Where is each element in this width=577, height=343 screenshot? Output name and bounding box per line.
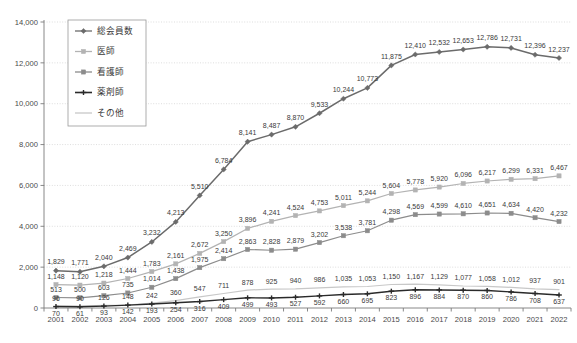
x-axis-tick-label: 2004 <box>119 315 136 324</box>
data-point-label: 409 <box>218 303 230 310</box>
data-point-label: 5,011 <box>335 194 352 201</box>
legend-label: 看護師 <box>97 66 124 77</box>
x-axis-tick-label: 2008 <box>215 315 232 324</box>
data-point-label: 193 <box>146 307 158 314</box>
data-point-label: 592 <box>314 299 326 306</box>
data-point-label: 2,672 <box>191 241 209 248</box>
data-point-label: 1,035 <box>335 275 353 282</box>
data-point-marker <box>222 257 226 261</box>
data-point-label: 12,396 <box>524 42 546 49</box>
data-point-label: 5,244 <box>359 189 377 196</box>
data-point-label: 70 <box>52 310 60 317</box>
data-point-label: 12,653 <box>452 37 474 44</box>
data-point-label: 61 <box>76 310 84 317</box>
data-point-label: 2,469 <box>119 245 137 252</box>
y-axis-tick-label: 8,000 <box>19 140 38 149</box>
data-point-marker <box>437 212 441 216</box>
data-point-label: 4,610 <box>454 202 472 209</box>
data-point-label: 4,569 <box>407 203 425 210</box>
data-point-label: 1,120 <box>71 273 89 280</box>
data-point-marker <box>150 269 154 273</box>
data-point-marker <box>389 191 393 195</box>
data-point-marker <box>461 212 465 216</box>
data-point-label: 2,879 <box>287 237 305 244</box>
data-point-marker <box>485 179 489 183</box>
data-point-label: 12,731 <box>500 35 522 42</box>
data-point-label: 1,975 <box>191 256 209 263</box>
data-point-label: 4,232 <box>550 210 568 217</box>
data-point-label: 5,778 <box>407 178 425 185</box>
data-point-label: 3,202 <box>311 231 329 238</box>
data-point-label: 5,510 <box>191 183 209 190</box>
x-axis-tick-label: 2006 <box>167 315 184 324</box>
data-point-marker <box>437 49 442 54</box>
x-axis-tick-label: 2011 <box>287 315 303 324</box>
data-point-label: 360 <box>170 289 182 296</box>
data-point-marker <box>365 229 369 233</box>
legend-label: 薬剤師 <box>97 86 124 97</box>
data-point-marker <box>198 266 202 270</box>
y-axis-tick-label: 14,000 <box>15 18 38 27</box>
data-point-label: 142 <box>122 308 134 315</box>
data-point-label: 148 <box>122 293 134 300</box>
data-point-label: 126 <box>98 294 110 301</box>
data-point-label: 1,438 <box>167 267 185 274</box>
data-point-marker <box>341 204 345 208</box>
data-point-label: 6,467 <box>550 164 568 171</box>
data-point-label: 1,218 <box>95 271 113 278</box>
data-point-marker <box>126 276 130 280</box>
data-point-label: 925 <box>266 278 278 285</box>
data-point-label: 2,161 <box>167 252 185 259</box>
data-point-label: 4,524 <box>287 204 305 211</box>
data-point-label: 695 <box>362 297 374 304</box>
data-point-marker <box>293 247 297 251</box>
x-axis-tick-label: 2012 <box>311 315 328 324</box>
data-point-marker <box>174 262 178 266</box>
data-point-marker <box>81 49 85 53</box>
data-point-marker <box>150 285 154 289</box>
data-point-marker <box>509 177 513 181</box>
data-point-label: 8,487 <box>263 122 281 129</box>
data-point-label: 937 <box>529 277 541 284</box>
data-point-label: 878 <box>242 279 254 286</box>
data-point-label: 870 <box>457 293 469 300</box>
data-point-label: 901 <box>553 278 565 285</box>
x-axis-tick-label: 2019 <box>479 315 496 324</box>
data-point-label: 11,875 <box>381 53 402 60</box>
data-point-marker <box>485 44 490 49</box>
x-axis-tick-label: 2009 <box>239 315 256 324</box>
y-axis-tick-label: 2,000 <box>19 263 38 272</box>
data-point-marker <box>317 240 321 244</box>
data-point-label: 860 <box>481 293 493 300</box>
data-point-label: 316 <box>194 305 206 312</box>
data-point-marker <box>365 199 369 203</box>
x-axis-tick-label: 2014 <box>359 315 376 324</box>
y-axis-tick-label: 0 <box>34 304 38 313</box>
data-point-label: 1,014 <box>143 275 161 282</box>
x-axis-tick-label: 2015 <box>383 315 400 324</box>
data-point-label: 93 <box>100 309 108 316</box>
data-point-label: 603 <box>98 284 110 291</box>
data-point-label: 12,237 <box>548 46 570 53</box>
data-point-label: 2,040 <box>95 254 113 261</box>
data-point-label: 3,538 <box>335 224 353 231</box>
data-point-label: 9,533 <box>311 101 329 108</box>
data-point-marker <box>341 234 345 238</box>
data-point-label: 637 <box>553 298 565 305</box>
data-point-label: 711 <box>218 282 229 289</box>
data-point-marker <box>557 174 561 178</box>
legend: 総会員数医師看護師薬剤師その他 <box>68 20 146 126</box>
data-point-label: 1,167 <box>407 273 425 280</box>
data-point-marker <box>556 55 561 60</box>
legend-label: 医師 <box>97 45 115 56</box>
legend-label: 総会員数 <box>97 25 133 36</box>
data-point-label: 823 <box>385 294 397 301</box>
y-axis-tick-label: 4,000 <box>19 222 38 231</box>
data-point-marker <box>485 211 489 215</box>
line-chart: 02,0004,0006,0008,00010,00012,00014,0002… <box>0 0 577 343</box>
data-point-label: 8,870 <box>287 114 305 121</box>
data-point-label: 2,414 <box>215 247 233 254</box>
data-point-marker <box>269 132 274 137</box>
data-point-label: 1,444 <box>119 267 137 274</box>
y-axis-tick-label: 10,000 <box>15 99 38 108</box>
